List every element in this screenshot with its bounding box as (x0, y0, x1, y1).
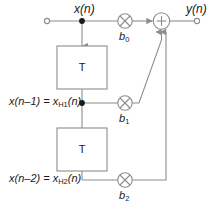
tap2-signal-label: x(n–2) = xH2(n) (9, 173, 81, 185)
delay-block-1-label: T (57, 62, 107, 73)
wire-b1-to-adder (132, 32, 162, 103)
input-terminal (44, 18, 49, 23)
delay-block-2-label: T (57, 144, 107, 155)
tap1-signal-label: x(n–1) = xH1(n) (9, 96, 81, 108)
fir-filter-diagram: x(n) y(n) T T x(n–1) = xH1(n) x(n–2) = x… (0, 0, 218, 213)
junction-input-tap (79, 18, 85, 24)
wire-b2-to-adder (132, 32, 166, 180)
coefficient-b0-label: b0 (119, 31, 129, 43)
tap2-label-tail: (n) (68, 172, 81, 184)
coefficient-b2-label: b2 (119, 190, 129, 202)
coefficient-b0-subscript: 0 (125, 35, 129, 44)
coefficient-b2-subscript: 2 (125, 194, 129, 203)
tap1-label-subscript: H1 (58, 100, 68, 109)
tap1-label-tail: (n) (68, 95, 81, 107)
coefficient-b1-subscript: 1 (125, 117, 129, 126)
tap2-label-main: x(n–2) = x (9, 172, 58, 184)
tap2-label-subscript: H2 (58, 177, 68, 186)
output-signal-label: y(n) (186, 3, 207, 15)
tap1-label-main: x(n–1) = x (9, 95, 58, 107)
coefficient-b1-label: b1 (119, 113, 129, 125)
output-terminal (194, 18, 199, 23)
input-signal-label: x(n) (74, 3, 95, 15)
